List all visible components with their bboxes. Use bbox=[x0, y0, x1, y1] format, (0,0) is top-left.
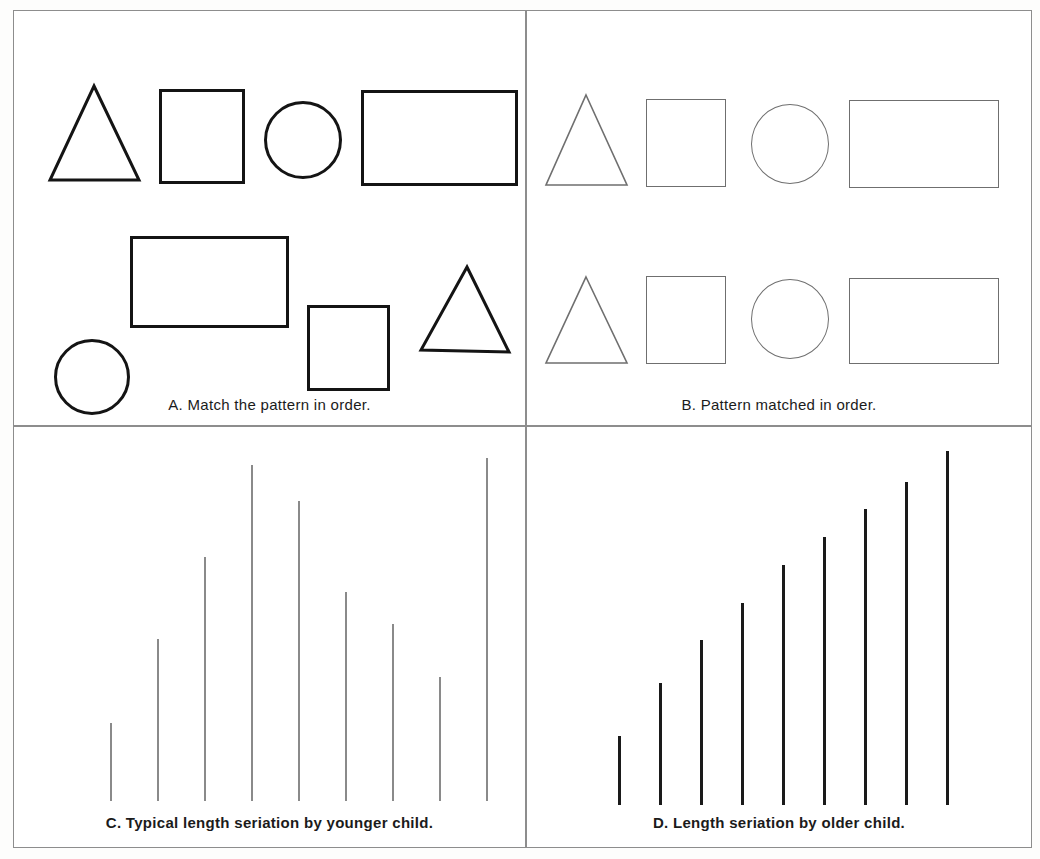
circle-shape bbox=[751, 279, 829, 359]
stick bbox=[110, 723, 112, 801]
panel-a: A. Match the pattern in order. bbox=[14, 11, 525, 425]
panel-c-caption: C. Typical length seriation by younger c… bbox=[14, 814, 525, 831]
stick bbox=[486, 458, 488, 801]
stick bbox=[782, 565, 785, 805]
stick bbox=[659, 683, 662, 805]
panel-a-caption: A. Match the pattern in order. bbox=[14, 396, 525, 413]
panel-d-caption: D. Length seriation by older child. bbox=[527, 814, 1031, 831]
rectangle-shape bbox=[849, 278, 999, 364]
stick bbox=[204, 557, 206, 801]
figure-root: A. Match the pattern in order. B. Patter… bbox=[0, 0, 1040, 859]
triangle-shape bbox=[544, 93, 629, 187]
stick bbox=[823, 537, 826, 805]
stick bbox=[700, 640, 703, 805]
stick-row-unordered bbox=[94, 443, 474, 801]
panel-b-caption: B. Pattern matched in order. bbox=[527, 396, 1031, 413]
triangle-shape bbox=[544, 275, 629, 365]
stick bbox=[618, 736, 621, 805]
circle-shape bbox=[264, 101, 342, 179]
stick bbox=[251, 465, 253, 801]
stick bbox=[157, 639, 159, 801]
triangle-shape bbox=[418, 264, 512, 355]
triangle-shape bbox=[47, 83, 142, 183]
panel-c: C. Typical length seriation by younger c… bbox=[14, 427, 525, 847]
square-shape bbox=[159, 89, 245, 184]
square-shape bbox=[307, 305, 390, 391]
rectangle-shape bbox=[130, 236, 289, 328]
panel-d: D. Length seriation by older child. bbox=[527, 427, 1031, 847]
square-shape bbox=[646, 99, 726, 187]
rectangle-shape bbox=[361, 90, 518, 186]
stick bbox=[439, 677, 441, 801]
stick bbox=[345, 592, 347, 801]
stick bbox=[298, 501, 300, 801]
stick bbox=[946, 451, 949, 805]
panel-b: B. Pattern matched in order. bbox=[527, 11, 1031, 425]
square-shape bbox=[646, 276, 726, 364]
stick bbox=[741, 603, 744, 805]
stick bbox=[392, 624, 394, 801]
circle-shape bbox=[751, 104, 829, 184]
stick bbox=[864, 509, 867, 805]
stick bbox=[905, 482, 908, 805]
rectangle-shape bbox=[849, 100, 999, 188]
stick-row-ordered bbox=[602, 443, 952, 805]
